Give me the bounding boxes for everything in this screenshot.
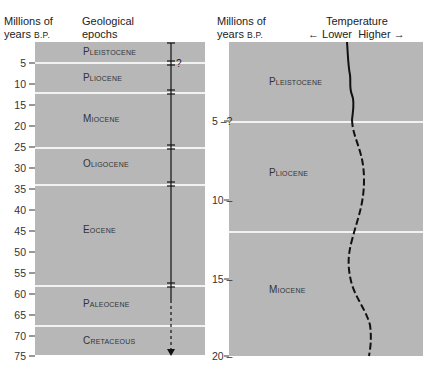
- temperature-curve-solid: [347, 42, 354, 120]
- epoch-range-line: [167, 43, 175, 349]
- arrow-down-icon: [167, 349, 175, 356]
- chart-overlay: ?: [0, 0, 435, 374]
- left-tick-marks: [29, 63, 35, 356]
- temperature-curve-dashed: [349, 120, 371, 356]
- uncertain-mark: ?: [176, 58, 182, 69]
- right-tick-marks: [224, 121, 229, 356]
